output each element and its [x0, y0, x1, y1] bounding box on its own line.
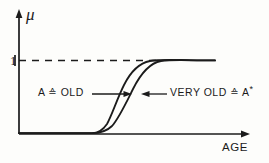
left-pointer-arrow — [92, 91, 132, 97]
annotation-very-old: VERY OLD ≙ A* — [170, 87, 253, 98]
y-axis-label: μ — [26, 6, 35, 23]
annotation-old: A ≙ OLD — [38, 87, 84, 98]
y-axis — [16, 9, 23, 134]
annotation-old-term: OLD — [61, 86, 84, 98]
x-axis-label: AGE — [222, 142, 248, 154]
congruent-icon: ≙ — [48, 87, 57, 98]
right-pointer-arrow — [141, 91, 167, 97]
asterisk-icon: * — [249, 84, 253, 94]
congruent-icon: ≙ — [230, 87, 239, 98]
plot-canvas — [0, 0, 269, 163]
y-tick-label-one: 1 — [10, 54, 17, 67]
membership-function-figure: μ 1 AGE A ≙ OLD VERY OLD ≙ A* — [0, 0, 269, 163]
annotation-old-symbol-a: A — [38, 86, 45, 98]
annotation-very-old-term: VERY OLD — [170, 86, 227, 98]
